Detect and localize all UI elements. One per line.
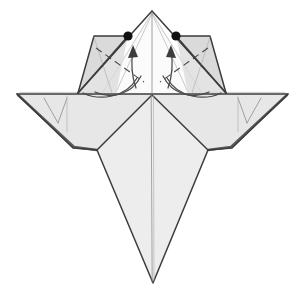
left-reference-dot-icon — [123, 31, 132, 40]
origami-diagram-svg — [0, 0, 304, 294]
right-reference-dot-icon — [171, 31, 180, 40]
origami-diagram-figure: Origami folding diagram step — [0, 0, 304, 294]
